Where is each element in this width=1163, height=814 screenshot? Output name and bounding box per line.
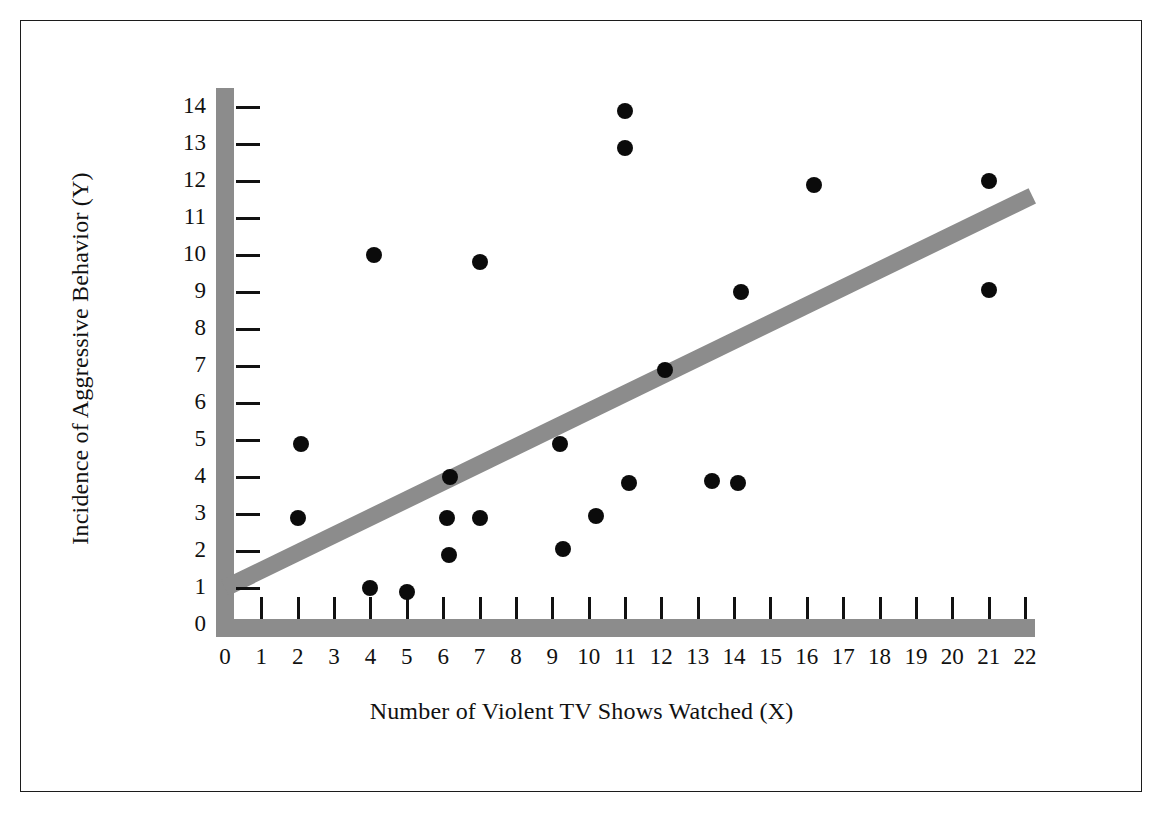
x-axis-title: Number of Violent TV Shows Watched (X) [0, 698, 1163, 725]
y-tick [236, 550, 260, 553]
y-tick [236, 217, 260, 220]
x-tick-label: 10 [569, 645, 609, 668]
y-tick [236, 180, 260, 183]
x-tick-label: 9 [532, 645, 572, 668]
x-tick-label: 7 [460, 645, 500, 668]
data-point [806, 177, 822, 193]
y-tick-label-text: 2 [172, 538, 206, 561]
data-point [362, 580, 378, 596]
x-tick [733, 597, 736, 619]
y-tick [236, 365, 260, 368]
x-tick [806, 597, 809, 619]
y-tick [236, 402, 260, 405]
data-point [617, 140, 633, 156]
x-tick [915, 597, 918, 619]
data-point [733, 284, 749, 300]
y-tick-label-text: 14 [172, 94, 206, 117]
x-tick [697, 597, 700, 619]
y-axis-title: Incidence of Aggressive Behavior (Y) [67, 79, 94, 639]
x-tick-label: 22 [1005, 645, 1045, 668]
y-tick [236, 439, 260, 442]
figure: 01234567891011121314 0123456789101112131… [0, 0, 1163, 814]
x-tick-label: 18 [860, 645, 900, 668]
y-tick [236, 587, 260, 590]
data-point [552, 436, 568, 452]
x-tick-label: 4 [350, 645, 390, 668]
y-tick-label-text: 9 [172, 279, 206, 302]
data-point [657, 362, 673, 378]
x-tick [479, 597, 482, 619]
data-point [588, 508, 604, 524]
data-point [290, 510, 306, 526]
x-tick [769, 597, 772, 619]
x-tick-label: 6 [423, 645, 463, 668]
x-tick-label: 20 [932, 645, 972, 668]
x-tick-label: 12 [641, 645, 681, 668]
data-point [366, 247, 382, 263]
scatter-plot: 01234567891011121314 0123456789101112131… [0, 0, 1163, 814]
y-tick-label-text: 4 [172, 464, 206, 487]
data-point [981, 282, 997, 298]
y-tick-label-text: 7 [172, 353, 206, 376]
y-tick-label: 12 [172, 168, 206, 191]
x-tick-label: 17 [823, 645, 863, 668]
x-tick [988, 597, 991, 619]
data-point [472, 254, 488, 270]
data-point [293, 436, 309, 452]
y-tick-label: 0 [172, 612, 206, 635]
y-tick-label-text: 6 [172, 390, 206, 413]
x-tick [660, 597, 663, 619]
y-tick-label: 13 [172, 131, 206, 154]
y-tick [236, 254, 260, 257]
data-point [442, 469, 458, 485]
x-tick-label: 2 [278, 645, 318, 668]
y-tick-label-text: 8 [172, 316, 206, 339]
x-tick-label: 8 [496, 645, 536, 668]
x-tick [551, 597, 554, 619]
y-tick [236, 513, 260, 516]
y-tick-label: 9 [172, 279, 206, 302]
x-tick [297, 597, 300, 619]
x-axis-bar [216, 619, 1035, 637]
data-point [399, 584, 415, 600]
y-tick-label: 3 [172, 501, 206, 524]
y-tick-label-text: 11 [172, 205, 206, 228]
y-axis-bar [216, 88, 234, 637]
y-tick-label: 2 [172, 538, 206, 561]
y-tick [236, 106, 260, 109]
x-tick-label: 13 [678, 645, 718, 668]
y-tick-label-text: 3 [172, 501, 206, 524]
data-point [981, 173, 997, 189]
y-tick [236, 328, 260, 331]
x-tick-label: 14 [714, 645, 754, 668]
x-tick [624, 597, 627, 619]
x-tick [515, 597, 518, 619]
y-tick-label: 10 [172, 242, 206, 265]
x-tick [879, 597, 882, 619]
data-point [704, 473, 720, 489]
y-tick-label: 1 [172, 575, 206, 598]
x-tick [588, 597, 591, 619]
x-tick [369, 597, 372, 619]
x-tick [333, 597, 336, 619]
y-tick-label-text: 0 [172, 612, 206, 635]
x-tick [1024, 597, 1027, 619]
x-tick-label: 0 [205, 645, 245, 668]
y-tick-label: 4 [172, 464, 206, 487]
x-tick [442, 597, 445, 619]
x-tick [951, 597, 954, 619]
data-point [555, 541, 571, 557]
y-tick-label: 8 [172, 316, 206, 339]
y-tick [236, 143, 260, 146]
x-tick [406, 597, 409, 619]
x-tick-label: 3 [314, 645, 354, 668]
data-point [621, 475, 637, 491]
data-point [730, 475, 746, 491]
x-tick-label: 11 [605, 645, 645, 668]
y-tick-label-text: 13 [172, 131, 206, 154]
x-tick-label: 5 [387, 645, 427, 668]
data-point [441, 547, 457, 563]
y-tick-label-text: 12 [172, 168, 206, 191]
data-point [617, 103, 633, 119]
y-tick-label-text: 5 [172, 427, 206, 450]
